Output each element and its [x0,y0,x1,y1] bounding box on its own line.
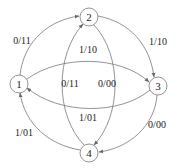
state-label-1: 1 [16,78,22,90]
state-node-3: 3 [149,77,167,95]
state-label-3: 3 [155,80,161,92]
edge-3-1 [27,88,150,109]
state-label-2: 2 [86,11,92,23]
edge-label-2-4: 0/00 [98,78,116,89]
edge-label-3-4: 0/00 [148,119,166,130]
state-label-4: 4 [86,147,92,159]
state-node-2: 2 [80,8,98,26]
edge-label-1-3: 1/10 [79,44,97,55]
edge-label-1-2: 0/11 [13,35,30,46]
edge-label-4-2: 0/11 [61,78,78,89]
edge-label-2-3: 1/10 [149,36,167,47]
state-node-4: 4 [80,144,98,162]
edge-label-4-1: 1/01 [15,127,33,138]
edge-1-3 [27,61,149,82]
edge-1-2 [20,16,79,75]
state-diagram: 0/11 1/10 0/00 1/01 1/10 1/01 0/11 0/00 … [0,0,178,168]
state-node-1: 1 [10,75,28,93]
edge-label-3-1: 1/01 [79,112,97,123]
